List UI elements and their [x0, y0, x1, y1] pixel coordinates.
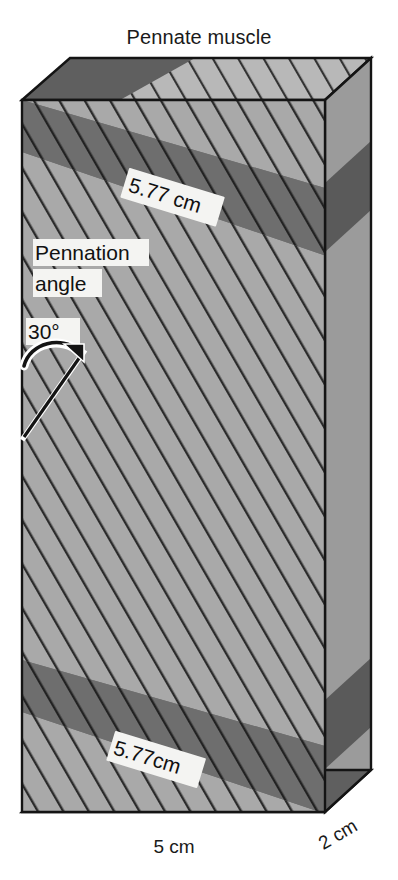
svg-text:angle: angle — [35, 272, 86, 295]
pennation-line2-text: angle — [35, 272, 86, 295]
depth-dimension-label: 2 cm — [315, 815, 361, 854]
block-right-face — [325, 58, 371, 812]
muscle-block-diagram: 5.77 cm 5.77cm Pennation angle — [0, 0, 398, 880]
pennation-line1-text: Pennation — [35, 241, 130, 264]
pennate-muscle-figure: Pennate muscle — [0, 0, 398, 880]
width-dimension-label: 5 cm — [153, 836, 194, 857]
svg-text:Pennation: Pennation — [35, 241, 130, 264]
pennation-label-line1: Pennation — [33, 239, 149, 266]
svg-text:2 cm: 2 cm — [315, 815, 361, 854]
pennation-label-line2: angle — [33, 269, 102, 297]
